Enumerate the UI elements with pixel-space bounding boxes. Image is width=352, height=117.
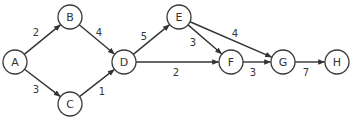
edge-a-c-arrow xyxy=(25,69,61,96)
edge-weight-f-g: 3 xyxy=(250,67,256,78)
node-e: E xyxy=(167,5,191,29)
edge-a-b-arrow xyxy=(24,25,60,54)
node-label: H xyxy=(333,56,341,69)
edge-weight-a-b: 2 xyxy=(33,27,39,38)
node-label: E xyxy=(176,11,183,24)
node-label: D xyxy=(120,56,128,69)
node-b: B xyxy=(58,5,82,29)
edge-c-d-arrow xyxy=(79,70,114,97)
node-label: B xyxy=(66,11,74,24)
node-d: D xyxy=(112,50,136,74)
edge-weight-g-h: 7 xyxy=(303,67,309,78)
node-label: G xyxy=(279,56,288,69)
node-h: H xyxy=(325,50,349,74)
node-f: F xyxy=(219,50,243,74)
weighted-directed-graph: 2341523437 ABCDEFGH xyxy=(0,0,352,117)
edge-weight-d-e: 5 xyxy=(141,31,147,42)
edge-weight-d-f: 2 xyxy=(173,67,179,78)
node-c: C xyxy=(58,92,82,116)
node-label: F xyxy=(228,56,234,69)
node-a: A xyxy=(3,50,27,74)
edge-weight-c-d: 1 xyxy=(99,86,105,97)
edge-weight-a-c: 3 xyxy=(33,84,39,95)
node-label: A xyxy=(11,56,19,69)
edge-weight-e-f: 3 xyxy=(190,37,196,48)
edge-weight-b-d: 4 xyxy=(96,27,102,38)
nodes-group: ABCDEFGH xyxy=(3,5,349,116)
node-label: C xyxy=(66,98,74,111)
node-g: G xyxy=(271,50,295,74)
edge-d-e-arrow xyxy=(133,25,169,54)
edge-weight-e-g: 4 xyxy=(232,28,238,39)
